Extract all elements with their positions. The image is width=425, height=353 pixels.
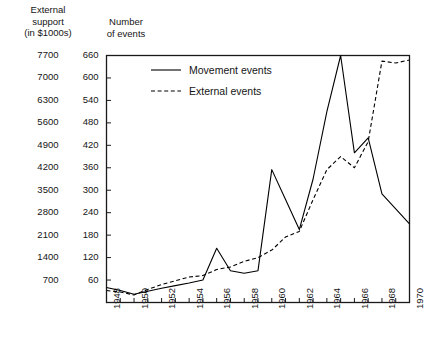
legend-label: Movement events: [189, 64, 272, 76]
legend-label: External events: [189, 85, 261, 97]
legend: Movement eventsExternal events: [151, 64, 272, 97]
